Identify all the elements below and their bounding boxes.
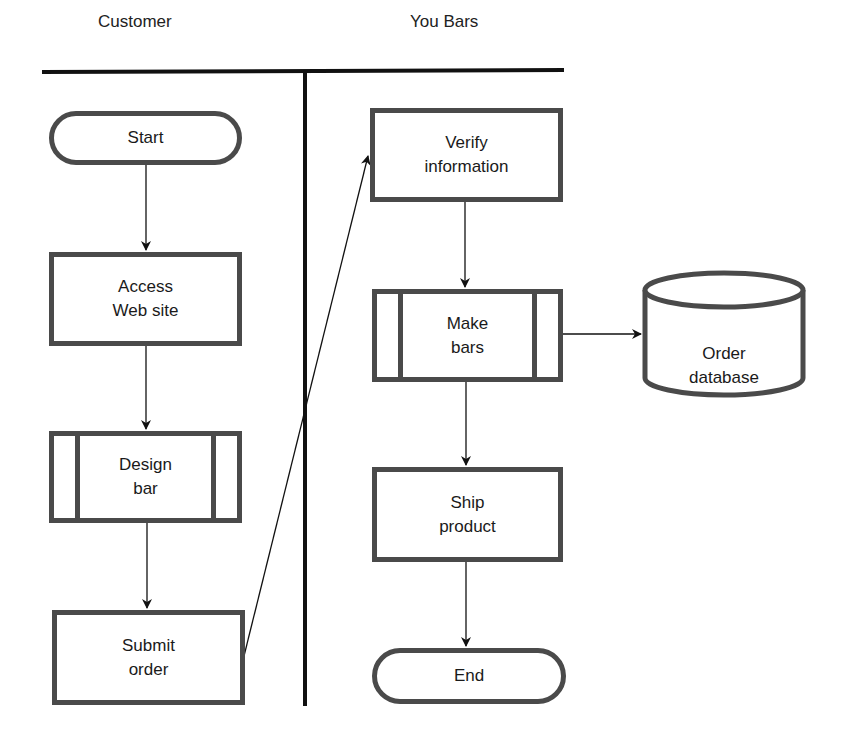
node-database-label: Order database (689, 344, 759, 387)
node-ship-label: Ship product (439, 491, 496, 539)
node-access-web-site[interactable]: Access Web site (49, 252, 242, 346)
node-make-bars[interactable]: Make bars (372, 289, 563, 382)
node-order-database[interactable]: Order database (645, 318, 803, 390)
node-verify-label: Verify information (424, 131, 508, 179)
node-submit-order[interactable]: Submit order (52, 610, 245, 705)
node-design-label: Design bar (119, 453, 172, 501)
node-ship-product[interactable]: Ship product (372, 467, 563, 562)
node-end[interactable]: End (372, 648, 566, 704)
node-make-label: Make bars (447, 312, 489, 360)
node-start[interactable]: Start (49, 111, 242, 165)
lane-header-line (42, 70, 564, 72)
node-end-label: End (454, 664, 484, 688)
node-access-label: Access Web site (113, 275, 179, 323)
node-verify-information[interactable]: Verify information (370, 108, 563, 202)
node-submit-label: Submit order (122, 634, 175, 682)
node-start-label: Start (128, 126, 164, 150)
node-design-bar[interactable]: Design bar (49, 431, 242, 523)
